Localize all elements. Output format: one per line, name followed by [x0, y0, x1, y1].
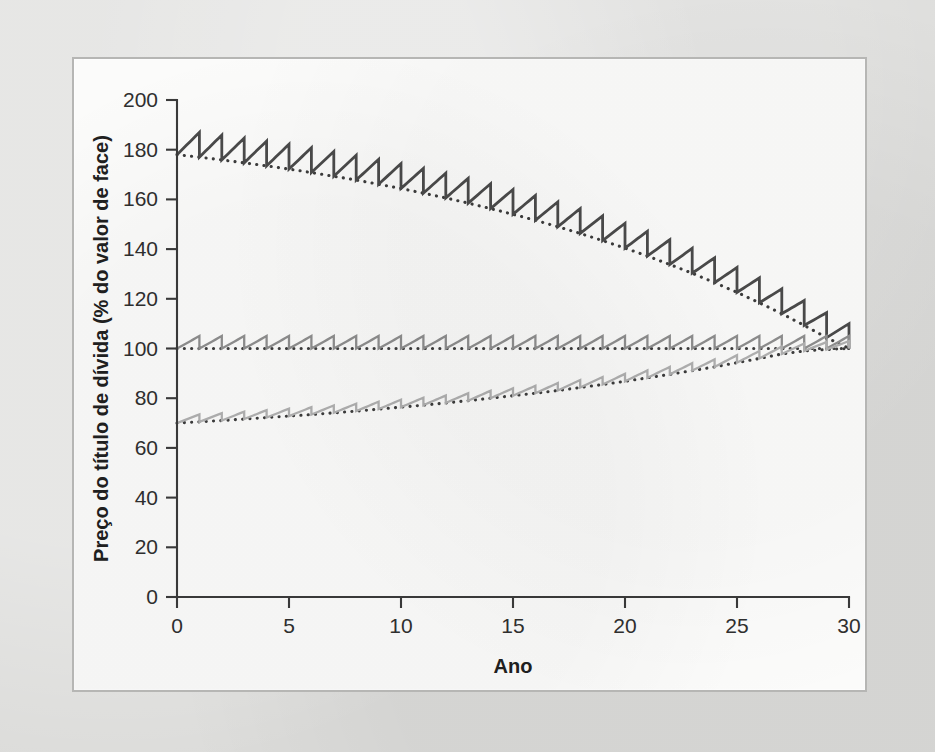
y-axis-tick-label: 160 [123, 187, 158, 210]
y-axis-tick-label: 140 [123, 237, 158, 260]
y-axis-ticks: 020406080100120140160180200 [123, 88, 177, 608]
series-coupon-5 [177, 336, 849, 348]
y-axis-title: Preço do título de dívida (% do valor de… [90, 135, 112, 562]
series-curve [177, 341, 849, 423]
trend-line-dotted [177, 155, 849, 349]
y-axis-tick-label: 180 [123, 138, 158, 161]
y-axis-tick-label: 100 [123, 337, 158, 360]
y-axis-tick-label: 200 [123, 88, 158, 111]
y-axis-tick-label: 80 [135, 386, 158, 409]
x-axis-tick-label: 10 [389, 614, 412, 637]
y-axis-tick-label: 0 [146, 585, 158, 608]
y-axis-tick-label: 40 [135, 486, 158, 509]
x-axis-tick-label: 20 [613, 614, 636, 637]
chart-panel: 020406080100120140160180200 051015202530… [72, 57, 867, 692]
x-axis-title: Ano [494, 655, 533, 677]
series-coupon-3 [177, 341, 849, 423]
x-axis-tick-label: 30 [837, 614, 860, 637]
y-axis-tick-label: 20 [135, 535, 158, 558]
trend-line-dotted [177, 349, 849, 424]
x-axis-tick-label: 15 [501, 614, 524, 637]
series-curve [177, 336, 849, 348]
chart-plot: 020406080100120140160180200 051015202530… [74, 59, 861, 686]
y-axis-tick-label: 120 [123, 287, 158, 310]
figure-root: 020406080100120140160180200 051015202530… [0, 0, 935, 752]
x-axis-tick-label: 0 [171, 614, 183, 637]
x-axis-tick-label: 25 [725, 614, 748, 637]
y-axis-tick-label: 60 [135, 436, 158, 459]
series-curve [177, 132, 849, 348]
series-layer [177, 132, 849, 423]
axes-layer: 020406080100120140160180200 051015202530 [123, 88, 861, 637]
x-axis-ticks: 051015202530 [171, 597, 861, 637]
series-coupon-10 [177, 132, 849, 348]
x-axis-tick-label: 5 [283, 614, 295, 637]
